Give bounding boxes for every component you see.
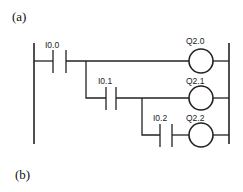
coil-label-q2-0: Q2.0 [186,36,205,46]
coil-label-q2-2: Q2.2 [186,113,205,123]
rung-1: I0.0 Q2.0 [34,36,229,73]
coil-q2-1 [189,86,213,110]
contact-i0-1 [106,87,116,110]
ladder-diagram: (a) (b) I0.0 Q2.0 I0.1 Q2.1 [0,0,243,192]
panel-label-a: (a) [12,9,26,24]
contact-label-i0-2: I0.2 [153,113,167,123]
coil-q2-0 [189,49,213,73]
contact-i0-0 [53,50,66,73]
rung-3: I0.2 Q2.2 [142,98,229,147]
panel-label-b: (b) [15,167,30,182]
contact-label-i0-1: I0.1 [98,76,112,86]
contact-i0-2 [160,124,172,147]
contact-label-i0-0: I0.0 [45,40,59,50]
coil-q2-2 [189,123,213,147]
coil-label-q2-1: Q2.1 [186,76,205,86]
